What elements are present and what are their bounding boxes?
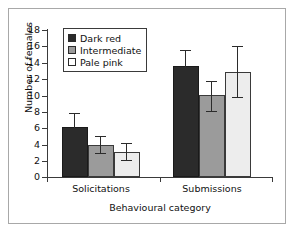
y-tick-6: [42, 128, 47, 129]
y-tick-label-8: 8: [18, 106, 40, 117]
bar-solicitations-dark-red: [62, 127, 88, 177]
x-axis-title: Behavioural category: [47, 202, 273, 213]
y-tick-4: [42, 145, 47, 146]
x-group-label-solicitations: Solicitations: [46, 183, 156, 194]
y-tick-18: [42, 30, 47, 31]
y-tick-12: [42, 79, 47, 80]
legend-item-pale-pink: Pale pink: [68, 56, 141, 68]
errorbar-cap-bottom-solicitations-pale-pink: [121, 160, 132, 161]
errorbar-cap-bottom-submissions-pale-pink: [232, 97, 243, 98]
errorbar-solicitations-intermediate: [100, 136, 101, 153]
bar-chart: Number of females 18 16 14 12 10 8 6 4 2…: [0, 0, 294, 232]
bar-solicitations-intermediate: [88, 145, 114, 177]
errorbar-cap-bottom-submissions-dark-red: [180, 84, 191, 85]
errorbar-cap-bottom-solicitations-intermediate: [95, 153, 106, 154]
y-tick-14: [42, 63, 47, 64]
errorbar-cap-bottom-solicitations-dark-red: [69, 139, 80, 140]
x-tick-left: [47, 177, 48, 182]
errorbar-submissions-dark-red: [185, 50, 186, 84]
errorbar-cap-top-submissions-dark-red: [180, 50, 191, 51]
legend-label-dark-red: Dark red: [80, 33, 121, 44]
x-tick-middle: [160, 177, 161, 182]
errorbar-cap-bottom-submissions-intermediate: [206, 111, 217, 112]
figure: Number of females 18 16 14 12 10 8 6 4 2…: [0, 0, 294, 232]
legend-swatch-pale-pink-icon: [68, 58, 76, 66]
y-tick-label-2: 2: [18, 155, 40, 166]
y-tick-label-4: 4: [18, 139, 40, 150]
errorbar-solicitations-pale-pink: [126, 143, 127, 160]
bar-submissions-dark-red: [173, 66, 199, 177]
errorbar-cap-top-submissions-pale-pink: [232, 46, 243, 47]
y-tick-label-14: 14: [18, 57, 40, 68]
bar-submissions-pale-pink: [225, 72, 251, 177]
y-tick-label-10: 10: [18, 90, 40, 101]
legend-label-intermediate: Intermediate: [80, 45, 141, 56]
y-tick-10: [42, 96, 47, 97]
y-tick-label-6: 6: [18, 122, 40, 133]
y-tick-8: [42, 112, 47, 113]
y-tick-label-18: 18: [18, 24, 40, 35]
y-tick-label-16: 16: [18, 40, 40, 51]
legend: Dark red Intermediate Pale pink: [63, 28, 147, 72]
errorbar-submissions-pale-pink: [237, 46, 238, 97]
errorbar-cap-top-solicitations-intermediate: [95, 136, 106, 137]
errorbar-cap-top-solicitations-pale-pink: [121, 143, 132, 144]
legend-item-intermediate: Intermediate: [68, 44, 141, 56]
y-tick-2: [42, 161, 47, 162]
legend-swatch-intermediate-icon: [68, 46, 76, 54]
y-tick-label-0: 0: [18, 171, 40, 182]
y-axis-line: [47, 29, 48, 178]
errorbar-submissions-intermediate: [211, 81, 212, 111]
x-tick-right: [272, 177, 273, 182]
x-group-label-submissions: Submissions: [157, 183, 267, 194]
legend-swatch-dark-red-icon: [68, 34, 76, 42]
y-tick-label-12: 12: [18, 73, 40, 84]
legend-item-dark-red: Dark red: [68, 32, 141, 44]
errorbar-cap-top-solicitations-dark-red: [69, 113, 80, 114]
errorbar-cap-top-submissions-intermediate: [206, 81, 217, 82]
y-tick-16: [42, 46, 47, 47]
bar-submissions-intermediate: [199, 95, 225, 177]
legend-label-pale-pink: Pale pink: [80, 57, 123, 68]
errorbar-solicitations-dark-red: [74, 113, 75, 149]
bar-solicitations-pale-pink: [114, 152, 140, 177]
